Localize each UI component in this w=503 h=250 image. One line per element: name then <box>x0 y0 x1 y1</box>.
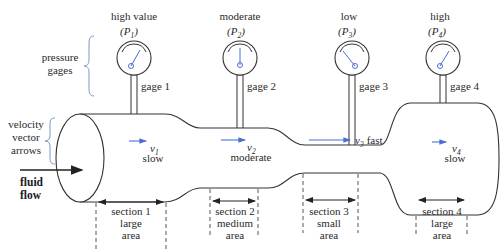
gauge-1 <box>117 41 151 75</box>
brace-icon <box>84 36 94 96</box>
velocity-vector-arrows-annotation: velocity vector arrows <box>8 118 55 164</box>
section-4-size: large <box>431 217 453 229</box>
gauge-1-symbol: (P1) <box>120 25 138 40</box>
section-4-name: section 4 <box>422 205 462 217</box>
section-3-size: small <box>317 217 341 229</box>
section-2-size: medium <box>217 217 253 229</box>
pressure-gages-line-1: pressure <box>42 51 79 63</box>
pressure-gages-line-2: gages <box>47 64 72 76</box>
gauge-4-symbol: (P4) <box>428 25 446 40</box>
gauge-2-symbol: (P2) <box>227 25 245 40</box>
gauge-4-label: gage 4 <box>450 80 480 92</box>
gauge-3-symbol: (P3) <box>338 25 356 40</box>
pressure-gages-annotation: pressure gages <box>42 36 94 96</box>
section-3-unit: area <box>320 229 338 241</box>
gauge-2-reading: moderate <box>220 10 261 22</box>
section-4-unit: area <box>433 229 451 241</box>
section-3-name: section 3 <box>309 205 349 217</box>
gauge-1-reading: high value <box>111 10 157 22</box>
pipe-inlet-ellipse <box>56 114 104 202</box>
gauge-3-reading: low <box>341 10 358 22</box>
velocity-1-speed: slow <box>143 152 164 164</box>
venturi-diagram: high value (P1) moderate (P2) low (P3) h… <box>0 0 503 250</box>
section-2-unit: area <box>226 229 244 241</box>
gauge-3 <box>335 41 369 75</box>
velocity-2-speed: moderate <box>231 151 272 163</box>
section-1-unit: area <box>122 229 140 241</box>
velocity-line-1: velocity <box>8 118 44 130</box>
velocity-4-speed: slow <box>445 152 466 164</box>
section-1-size: large <box>120 217 142 229</box>
velocity-line-2: vector <box>12 131 40 143</box>
brace-icon <box>45 118 55 164</box>
fluid-flow-line-2: flow <box>20 189 42 201</box>
gauge-2 <box>223 41 257 75</box>
section-1-name: section 1 <box>111 205 150 217</box>
fluid-flow-line-1: fluid <box>20 176 44 188</box>
gauge-4-reading: high <box>430 10 450 22</box>
gauge-readings: high value (P1) moderate (P2) low (P3) h… <box>111 10 450 40</box>
gauge-1-label: gage 1 <box>141 80 170 92</box>
section-2-name: section 2 <box>215 205 254 217</box>
gauge-2-label: gage 2 <box>247 80 276 92</box>
velocity-line-3: arrows <box>11 144 41 156</box>
gauge-3-label: gage 3 <box>359 80 389 92</box>
gauge-4 <box>426 41 460 75</box>
